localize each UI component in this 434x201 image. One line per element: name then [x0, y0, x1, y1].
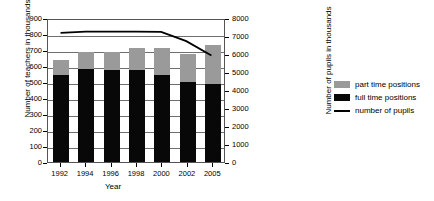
y-tick-label-left-200: 200 [16, 127, 42, 135]
y-tick-label-right-1000: 1000 [232, 141, 262, 149]
legend-label-pupils: number of pupils [355, 106, 414, 115]
black-line-swatch [334, 107, 350, 114]
y-tick-mark-right [225, 145, 229, 146]
x-tick-mark [212, 163, 213, 167]
y-tick-label-left-500: 500 [16, 79, 42, 87]
y-tick-label-right-7000: 7000 [232, 33, 262, 41]
gray-square-swatch [334, 81, 350, 88]
y-tick-label-right-2000: 2000 [232, 123, 262, 131]
y-tick-label-right-8000: 8000 [232, 15, 262, 23]
y-tick-mark-right [225, 73, 229, 74]
x-axis-title: Year [105, 182, 121, 191]
y-tick-mark-right [225, 91, 229, 92]
black-square-swatch [334, 94, 350, 101]
y-tick-label-left-100: 100 [16, 143, 42, 151]
y-tick-mark-right [225, 37, 229, 38]
y-tick-label-left-400: 400 [16, 95, 42, 103]
x-tick-mark [187, 163, 188, 167]
pupils-line [61, 32, 212, 56]
y-tick-label-right-5000: 5000 [232, 69, 262, 77]
x-tick-label-2005: 2005 [195, 170, 229, 178]
plot-area [47, 19, 225, 163]
y-tick-mark-right [225, 127, 229, 128]
legend-label-full-time: full time positions [355, 93, 416, 102]
y-tick-mark-right [225, 109, 229, 110]
y-axis-title-right: Number of pupils in thousands [324, 0, 333, 131]
chart-figure: Number of teachers in thousands Number o… [0, 0, 434, 201]
y-tick-label-left-900: 900 [16, 15, 42, 23]
x-tick-mark [85, 163, 86, 167]
y-tick-label-right-3000: 3000 [232, 105, 262, 113]
y-tick-label-left-0: 0 [16, 159, 42, 167]
y-tick-mark-right [225, 19, 229, 20]
y-tick-mark-right [225, 163, 229, 164]
y-tick-label-right-4000: 4000 [232, 87, 262, 95]
pupils-line-series [48, 20, 224, 162]
y-tick-label-left-700: 700 [16, 47, 42, 55]
x-tick-mark [111, 163, 112, 167]
y-tick-label-right-0: 0 [232, 159, 262, 167]
y-tick-label-left-600: 600 [16, 63, 42, 71]
legend-label-part-time: part time positions [355, 80, 420, 89]
y-tick-mark-right [225, 55, 229, 56]
y-tick-label-left-300: 300 [16, 111, 42, 119]
legend-item-pupils: number of pupils [334, 104, 420, 117]
chart-legend: part time positions full time positions … [334, 78, 420, 117]
x-tick-mark [60, 163, 61, 167]
y-tick-label-right-6000: 6000 [232, 51, 262, 59]
y-tick-mark-left [43, 163, 47, 164]
x-tick-mark [161, 163, 162, 167]
legend-item-full-time: full time positions [334, 91, 420, 104]
x-tick-mark [136, 163, 137, 167]
legend-item-part-time: part time positions [334, 78, 420, 91]
y-tick-label-left-800: 800 [16, 31, 42, 39]
